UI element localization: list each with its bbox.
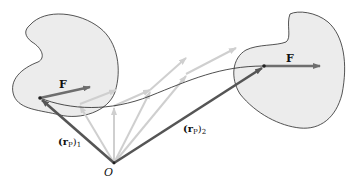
point-p-position-2 (262, 64, 266, 68)
position-1-index: 1 (77, 141, 81, 149)
diagram-canvas: F F O (rP)1 (rP)2 (0, 0, 353, 186)
ghost-force-vector-d (186, 48, 236, 74)
force-label-1: F (59, 78, 67, 91)
position-2-index: 2 (202, 128, 206, 136)
point-p-position-1 (38, 96, 42, 100)
force-label-2: F (286, 52, 294, 65)
origin-label: O (104, 166, 113, 179)
position-vector-label-2: (rP)2 (183, 123, 206, 136)
rigid-body-position-2 (234, 12, 345, 128)
ghost-force-vector-c (150, 58, 186, 90)
ghost-position-vector-a (80, 106, 114, 163)
position-vector-2 (114, 68, 262, 163)
position-vector-label-1: (rP)1 (58, 136, 81, 149)
origin-point (113, 162, 116, 165)
rigid-body-position-1 (13, 14, 119, 116)
